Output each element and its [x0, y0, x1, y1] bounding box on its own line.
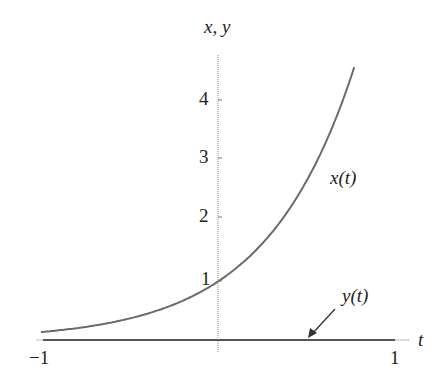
x-tick-label-neg1: −1: [29, 347, 49, 369]
y-tick-label-1: 1: [201, 268, 211, 290]
y-tick-label-2: 2: [199, 205, 209, 227]
plot-canvas: [0, 0, 442, 389]
series-x-curve: [41, 67, 354, 332]
y-axis-label: x, y: [204, 16, 230, 38]
y-annotation-arrow: [312, 309, 335, 334]
x-axis-label: t: [418, 329, 423, 351]
y-tick-label-3: 3: [199, 146, 209, 168]
x-tick-label-1: 1: [390, 347, 400, 369]
y-tick-label-4: 4: [199, 88, 209, 110]
series-x-label: x(t): [330, 167, 356, 189]
series-y-label: y(t): [342, 285, 368, 307]
